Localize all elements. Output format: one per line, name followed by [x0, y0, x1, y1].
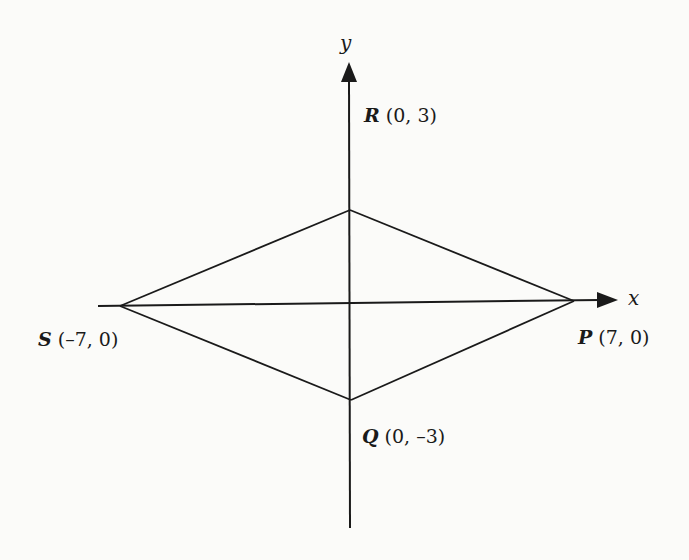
- point-name-R: R: [364, 104, 380, 126]
- point-coords-Q: (0, –3): [385, 425, 446, 447]
- point-label-Q: Q (0, –3): [362, 427, 445, 446]
- diagram-canvas: [0, 0, 689, 560]
- y-axis-arrowhead-icon: [341, 62, 357, 82]
- segment-SR: [120, 210, 350, 306]
- point-label-R: R (0, 3): [364, 106, 437, 125]
- segment-RP: [350, 210, 574, 301]
- y-axis: [349, 80, 350, 528]
- point-coords-R: (0, 3): [386, 104, 437, 126]
- point-name-P: P: [578, 326, 592, 348]
- point-label-S: S (–7, 0): [38, 330, 118, 349]
- point-name-Q: Q: [362, 425, 379, 447]
- y-axis-label: y: [340, 33, 351, 53]
- point-coords-S: (–7, 0): [58, 328, 119, 350]
- segment-QS: [120, 306, 351, 400]
- point-coords-P: (7, 0): [598, 326, 649, 348]
- rhombus-coordinate-diagram: y x R (0, 3) S (–7, 0) P (7, 0) Q (0, –3…: [0, 0, 689, 560]
- point-name-S: S: [38, 328, 52, 350]
- segment-PQ: [351, 301, 574, 400]
- x-axis-arrowhead-icon: [597, 292, 618, 308]
- x-axis-label: x: [628, 288, 639, 308]
- point-label-P: P (7, 0): [578, 328, 649, 347]
